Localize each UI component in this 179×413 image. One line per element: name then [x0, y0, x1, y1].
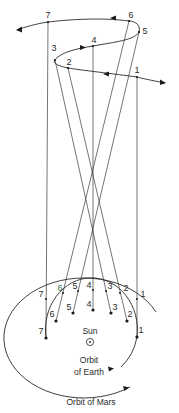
earth-label-2: 2: [127, 309, 132, 319]
arrow-right-end-icon: [160, 80, 166, 86]
mars-orbit-ellipse: [4, 278, 156, 398]
earth-orbit-label-line2: of Earth: [74, 367, 104, 377]
earth-position-5: [71, 311, 74, 314]
mars-label-7: 7: [38, 289, 43, 299]
apparent-label-6: 6: [128, 10, 133, 20]
earth-orbit-label-line1: Orbit: [80, 355, 99, 365]
sight-line-7: [46, 22, 48, 338]
earth-label-5: 5: [66, 302, 71, 312]
apparent-label-4: 4: [91, 35, 96, 45]
mars-position-4: [92, 289, 94, 291]
mars-label-5: 5: [72, 281, 77, 291]
sun-label: Sun: [82, 326, 97, 336]
sun-center-dot: [89, 341, 91, 343]
apparent-label-1: 1: [134, 65, 139, 75]
arrow-path-segment-3-icon: [80, 45, 86, 50]
apparent-label-7: 7: [45, 10, 50, 20]
earth-label-1: 1: [138, 325, 143, 335]
earth-position-7: [44, 336, 47, 339]
mars-orbit-label: Orbit of Mars: [66, 397, 115, 407]
apparent-point-6: [128, 20, 130, 22]
earth-label-6: 6: [49, 309, 54, 319]
earth-label-3: 3: [112, 302, 117, 312]
mars-position-2: [119, 292, 121, 294]
apparent-label-5: 5: [142, 26, 147, 36]
arrow-path-segment-1-icon: [103, 72, 109, 77]
apparent-label-3: 3: [51, 43, 56, 53]
earth-position-1: [135, 335, 138, 338]
apparent-point-1: [136, 76, 138, 78]
retrograde-motion-diagram: 1 2 3 4 5 6 7 Orbit of Mars 1 2 3 4 5 6 …: [0, 0, 179, 413]
apparent-point-4: [92, 45, 94, 47]
earth-position-2: [125, 319, 128, 322]
earth-label-4: 4: [86, 299, 91, 309]
earth-orbit-arrow-icon: [108, 367, 114, 372]
apparent-label-2: 2: [66, 57, 71, 67]
mars-position-7: [45, 298, 47, 300]
apparent-point-7: [47, 21, 49, 23]
sun: Sun: [82, 326, 97, 346]
earth-label-7: 7: [38, 326, 43, 336]
mars-label-4: 4: [86, 280, 91, 290]
mars-position-1: [136, 298, 138, 300]
apparent-point-3: [54, 59, 56, 61]
apparent-point-5: [138, 31, 140, 33]
earth-position-6: [54, 319, 57, 322]
arrow-left-end-icon: [16, 27, 22, 33]
apparent-point-2: [67, 67, 69, 69]
mars-label-1: 1: [140, 289, 145, 299]
earth-position-4: [91, 308, 94, 311]
mars-orbit: Orbit of Mars 1 2 3 4 5 6 7: [4, 278, 156, 407]
mars-label-2: 2: [123, 283, 128, 293]
apparent-path: 1 2 3 4 5 6 7: [16, 10, 166, 85]
